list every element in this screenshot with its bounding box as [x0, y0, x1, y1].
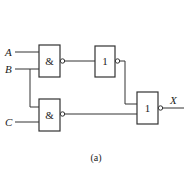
figure-caption: (a)	[90, 152, 101, 164]
label-input-a: A	[4, 46, 12, 58]
logic-circuit-diagram: & 1 & 1 A B C X (a)	[0, 0, 189, 172]
inversion-bubble-lower	[60, 112, 64, 116]
gate-nand-lower-symbol: &	[45, 109, 54, 121]
inversion-bubble-upper	[60, 59, 64, 63]
inversion-bubble-not	[115, 59, 119, 63]
label-input-b: B	[5, 63, 12, 75]
gate-nand-upper-symbol: &	[45, 55, 54, 67]
inversion-bubble-output	[158, 106, 162, 110]
label-output-x: X	[169, 94, 178, 106]
wire-b-branch	[30, 69, 39, 107]
gate-nor-output-symbol: 1	[145, 102, 151, 114]
gate-not-symbol: 1	[102, 55, 108, 67]
wire-g2-to-g4	[120, 61, 137, 104]
label-input-c: C	[5, 116, 13, 128]
